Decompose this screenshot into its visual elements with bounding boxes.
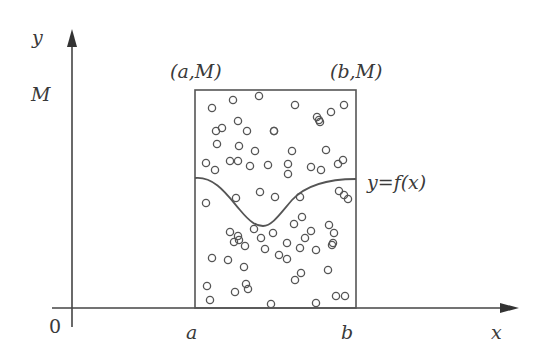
sample-point [213,140,220,147]
sample-point [202,159,209,166]
sample-point [211,166,218,173]
sample-point [307,163,314,170]
sample-point [255,92,262,99]
curve-label: y=f(x) [366,171,426,193]
x-tick-b-label: b [341,321,353,343]
sample-point [296,244,303,251]
sample-point [229,96,236,103]
sample-point [283,255,290,262]
diagram-canvas: y M 0 a b x (a,M) (b,M) y=f(x) [0,0,540,359]
sample-point [232,194,239,201]
sample-point [271,193,278,200]
y-axis-label: y [31,26,43,48]
sample-point [291,101,298,108]
sample-point [339,156,346,163]
sample-point [235,142,242,149]
sample-point [283,239,290,246]
sample-point [312,299,319,306]
sample-point [231,288,238,295]
sample-point [317,166,324,173]
sample-point [296,193,303,200]
sample-point [275,251,282,258]
sample-point [267,300,274,307]
sample-point [332,292,339,299]
sample-point [206,296,213,303]
sample-point [344,195,351,202]
sample-point [269,229,276,236]
y-tick-m-label: M [30,83,51,105]
sample-point [298,213,305,220]
sample-point [224,256,231,263]
sample-point [241,242,248,249]
sample-point [256,188,263,195]
corner-label-a-m: (a,M) [170,60,222,82]
sample-point [226,228,233,235]
sample-point [288,147,295,154]
origin-label: 0 [49,315,61,337]
function-curve [195,178,356,226]
x-axis-arrow-icon [500,303,519,313]
sample-point [218,124,225,131]
sample-point [340,191,347,198]
sample-point [340,101,347,108]
sample-point [202,199,209,206]
sample-point [330,229,337,236]
sample-point [208,104,215,111]
y-axis-arrow-icon [67,29,77,47]
x-tick-a-label: a [186,321,197,343]
sample-point [334,160,341,167]
sample-point [270,127,277,134]
sample-point [226,157,233,164]
sample-point [312,246,319,253]
sample-point [284,170,291,177]
sample-point [240,263,247,270]
sample-point [335,187,342,194]
sample-point [325,221,332,228]
random-points [202,92,351,307]
sample-point [250,225,257,232]
sample-point [290,220,297,227]
sample-point [322,146,329,153]
sample-point [208,254,215,261]
monte-carlo-diagram: y M 0 a b x (a,M) (b,M) y=f(x) [0,0,540,359]
sample-point [301,234,308,241]
sample-point [307,227,314,234]
sample-point [203,282,210,289]
sample-point [341,292,348,299]
sample-point [246,162,253,169]
sample-point [234,157,241,164]
sample-point [251,147,258,154]
bounding-rectangle [195,90,356,308]
sample-point [234,117,241,124]
sample-point [291,276,298,283]
sample-point [284,160,291,167]
sample-point [243,127,250,134]
sample-point [264,161,271,168]
sample-point [261,245,268,252]
x-axis-label: x [491,321,502,343]
corner-label-b-m: (b,M) [330,60,382,82]
sample-point [324,266,331,273]
sample-point [327,108,334,115]
sample-point [297,269,304,276]
sample-point [257,234,264,241]
